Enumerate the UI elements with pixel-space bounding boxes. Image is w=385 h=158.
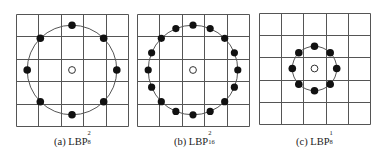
caption-radius: 2	[88, 129, 91, 136]
caption-radius: 1	[330, 129, 333, 136]
neighbor-point	[148, 49, 155, 56]
neighbor-point	[234, 66, 241, 73]
neighbor-point	[326, 80, 334, 88]
caption-points: 8	[88, 138, 91, 145]
neighbor-point	[189, 111, 196, 118]
center-pixel	[69, 67, 76, 74]
neighbor-point	[207, 25, 214, 32]
neighbor-point	[148, 84, 155, 91]
neighbor-point	[68, 111, 76, 119]
neighbor-point	[68, 21, 76, 29]
neighbor-point	[289, 65, 297, 73]
caption-a: (a) LBP28	[54, 135, 98, 147]
neighbor-point	[189, 22, 196, 29]
neighbor-point	[100, 35, 108, 43]
neighbor-point	[231, 49, 238, 56]
neighbor-point	[326, 49, 334, 57]
panel-b	[137, 14, 249, 126]
neighbor-point	[311, 87, 319, 95]
neighbor-point	[37, 98, 45, 106]
neighbor-point	[231, 84, 238, 91]
neighbor-point	[172, 25, 179, 32]
caption-c: (c) LBP18	[296, 135, 340, 147]
neighbor-point	[221, 98, 228, 105]
grid-b	[137, 14, 250, 127]
neighbor-point	[172, 108, 179, 115]
neighbor-point	[295, 80, 303, 88]
neighbor-point	[207, 108, 214, 115]
panel-a	[16, 14, 128, 126]
caption-radius: 2	[208, 129, 211, 136]
neighbor-point	[311, 43, 319, 51]
caption-label: (b) LBP	[174, 136, 208, 147]
caption-label: (a) LBP	[54, 136, 88, 147]
caption-b: (b) LBP216	[174, 135, 218, 147]
neighbor-point	[23, 66, 31, 74]
neighbor-point	[158, 98, 165, 105]
neighbor-point	[295, 49, 303, 57]
caption-label: (c) LBP	[296, 136, 330, 147]
neighbor-point	[333, 65, 341, 73]
center-pixel	[190, 67, 197, 74]
neighbor-point	[145, 66, 152, 73]
caption-points: 8	[330, 138, 333, 145]
neighbor-point	[221, 35, 228, 42]
center-pixel	[311, 65, 318, 72]
panel-c	[259, 13, 370, 124]
grid-a	[16, 14, 129, 127]
neighbor-point	[100, 98, 108, 106]
neighbor-point	[113, 66, 121, 74]
neighbor-point	[37, 35, 45, 43]
grid-c	[259, 13, 371, 125]
caption-points: 16	[208, 138, 215, 145]
neighbor-point	[158, 35, 165, 42]
